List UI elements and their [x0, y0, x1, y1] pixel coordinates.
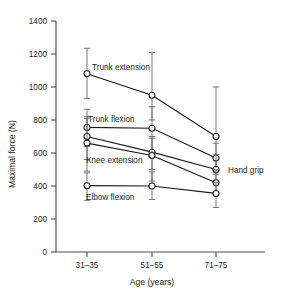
x-axis-ticks: 31–35 51–55 71–75: [76, 252, 228, 270]
series-annotations: Trunk extensionTrunk flexionKnee extensi…: [86, 63, 264, 202]
series-label: Elbow flexion: [86, 193, 135, 202]
figure-caption: [0, 284, 283, 294]
y-axis-ticks: 0 200 400 600 800 1000 1200 1400: [29, 17, 56, 257]
y-tick-label: 600: [33, 149, 47, 158]
y-tick-label: 1400: [29, 17, 48, 26]
series-elbow-flexion: [84, 172, 219, 207]
series-label: Hand grip: [228, 166, 264, 175]
y-tick-label: 1200: [29, 50, 48, 59]
plot-series-layer: [84, 48, 219, 207]
series-label: Knee extension: [86, 156, 143, 165]
y-tick-label: 0: [42, 248, 47, 257]
y-tick-label: 200: [33, 215, 47, 224]
x-tick-label: 71–75: [205, 261, 228, 270]
data-point-marker: [84, 183, 90, 189]
data-point-marker: [149, 183, 155, 189]
y-tick-label: 400: [33, 182, 47, 191]
y-tick-label: 800: [33, 116, 47, 125]
y-tick-label: 1000: [29, 83, 48, 92]
data-point-marker: [149, 152, 155, 158]
data-point-marker: [84, 140, 90, 146]
line-chart: Maximal force (N) 0 200 400 600 800 1000…: [0, 0, 283, 294]
figure-container: Maximal force (N) 0 200 400 600 800 1000…: [0, 0, 283, 294]
data-point-marker: [149, 125, 155, 131]
data-point-marker: [213, 134, 219, 140]
data-point-marker: [149, 92, 155, 98]
data-point-marker: [213, 190, 219, 196]
x-tick-label: 51–55: [141, 261, 164, 270]
series-label: Trunk extension: [92, 63, 150, 72]
x-tick-label: 31–35: [76, 261, 99, 270]
y-axis-title: Maximal force (N): [7, 120, 17, 188]
series-label: Trunk flexion: [88, 115, 135, 124]
data-point-marker: [84, 71, 90, 77]
